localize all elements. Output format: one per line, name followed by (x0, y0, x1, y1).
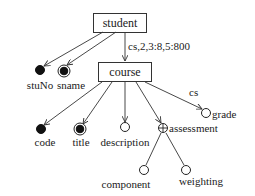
svg-text:grade: grade (212, 108, 237, 120)
open-circle-icon (121, 123, 130, 132)
svg-text:weighting: weighting (179, 175, 223, 187)
object-student-label: student (103, 16, 138, 30)
key-attribute-icon (37, 125, 46, 134)
attribute-weighting: weighting (179, 166, 223, 188)
open-circle-icon (202, 109, 211, 118)
key-attribute-icon (36, 66, 45, 75)
object-course-label: course (109, 65, 140, 79)
schema-diagram: student cs,2,3:8,5:800 stuNo sname cours… (0, 0, 255, 196)
attribute-component: component (102, 166, 151, 191)
attribute-code: code (35, 125, 56, 149)
open-circle-icon (140, 166, 149, 175)
svg-text:assessment: assessment (169, 122, 218, 134)
svg-text:title: title (72, 136, 89, 148)
object-student: student (94, 14, 147, 33)
object-course: course (99, 63, 152, 82)
relationship-label-grade: cs (189, 86, 198, 98)
edge-assessment-weighting (166, 133, 184, 165)
attribute-title: title (72, 123, 89, 148)
svg-text:description: description (101, 136, 150, 148)
attribute-assessment: assessment (159, 122, 218, 134)
svg-text:code: code (35, 136, 56, 148)
attribute-stuNo: stuNo (27, 66, 54, 92)
attribute-sname: sname (57, 65, 85, 91)
svg-text:stuNo: stuNo (27, 79, 54, 91)
open-circle-icon (182, 166, 191, 175)
svg-text:component: component (102, 178, 151, 190)
edge-course-title (83, 82, 112, 124)
svg-text:sname: sname (57, 79, 85, 91)
attribute-description: description (101, 123, 150, 149)
attribute-grade: grade (202, 108, 237, 120)
relationship-label-cs: cs,2,3:8,5:800 (128, 40, 191, 52)
